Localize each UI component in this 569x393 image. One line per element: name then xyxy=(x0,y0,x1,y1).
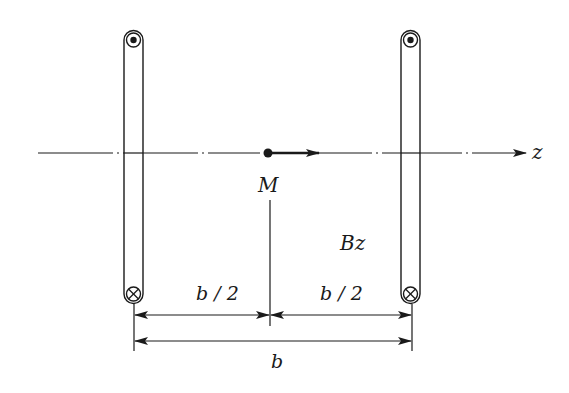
dimension-lines xyxy=(135,315,411,341)
current-out-icon xyxy=(407,37,413,43)
right-coil xyxy=(401,31,420,304)
dimension-label-total: b xyxy=(271,352,283,371)
dimension-label-left-half: b / 2 xyxy=(196,284,239,303)
point-label-m: M xyxy=(258,175,278,195)
left-coil xyxy=(124,31,143,304)
axis-label-z: z xyxy=(532,142,543,162)
dimension-label-right-half: b / 2 xyxy=(320,284,363,303)
helmholtz-coil-diagram xyxy=(0,0,569,393)
current-out-icon xyxy=(130,37,136,43)
field-label-bz: Bz xyxy=(340,233,365,253)
extension-lines xyxy=(134,304,412,351)
